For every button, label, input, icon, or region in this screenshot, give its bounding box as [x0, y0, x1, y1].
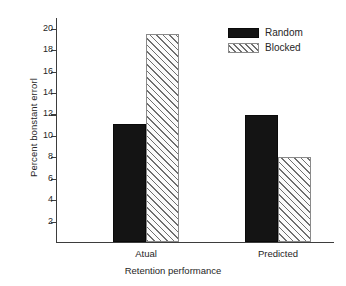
legend-item: Random — [228, 26, 303, 39]
legend-label: Random — [265, 27, 303, 38]
x-axis-title: Retention performance — [0, 265, 346, 276]
y-tick-label: 6 — [48, 173, 53, 183]
y-tick-label: 10 — [43, 130, 53, 140]
x-category-label: Predicted — [218, 248, 338, 259]
x-axis-line — [56, 242, 334, 243]
solid-black-swatch — [228, 28, 259, 38]
legend-item: Blocked — [228, 41, 303, 54]
chart-legend: RandomBlocked — [228, 26, 303, 56]
y-tick-label: 20 — [43, 23, 53, 33]
y-tick-label: 8 — [48, 151, 53, 161]
y-tick-label: 14 — [43, 87, 53, 97]
y-axis-line — [56, 18, 57, 243]
y-tick-label: 16 — [43, 66, 53, 76]
y-tick-label: 2 — [48, 216, 53, 226]
y-axis-title: Percent bonstant errorl — [28, 48, 39, 208]
x-category-label: Atual — [86, 248, 206, 259]
y-tick-label: 18 — [43, 44, 53, 54]
legend-label: Blocked — [265, 42, 301, 53]
bar-blocked-predicted — [278, 157, 311, 242]
bar-random-predicted — [245, 115, 278, 243]
bar-random-atual — [113, 124, 146, 242]
bar-chart: Percent bonstant errorl 2468101214161820… — [0, 0, 346, 286]
y-tick-label: 4 — [48, 194, 53, 204]
hatched-swatch — [228, 43, 259, 53]
y-tick-label: 12 — [43, 108, 53, 118]
bar-blocked-atual — [146, 34, 179, 242]
